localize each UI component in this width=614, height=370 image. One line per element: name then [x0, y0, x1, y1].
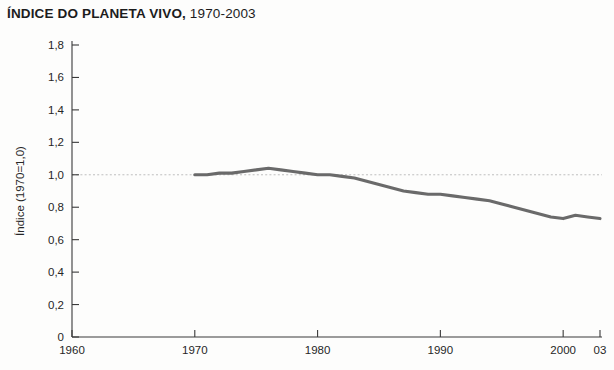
x-axis-ticks: 1960197019801990200003	[59, 330, 606, 356]
x-tick-label: 03	[594, 344, 607, 356]
y-tick-label: 0	[58, 331, 64, 343]
y-tick-label: 1,8	[48, 39, 64, 51]
x-tick-label: 1970	[182, 344, 208, 356]
x-tick-label: 2000	[550, 344, 576, 356]
y-tick-label: 0,2	[48, 299, 64, 311]
chart-figure: ÍNDICE DO PLANETA VIVO, 1970-2003 00,20,…	[0, 0, 614, 370]
x-tick-label: 1990	[428, 344, 454, 356]
line-chart-plot: 00,20,40,60,81,01,21,41,61,8 19601970198…	[0, 0, 614, 370]
x-tick-label: 1980	[305, 344, 331, 356]
y-axis-ticks: 00,20,40,60,81,01,21,41,61,8	[48, 39, 79, 343]
y-tick-label: 1,4	[48, 104, 65, 116]
y-tick-label: 0,4	[48, 266, 65, 278]
y-axis-title: Índice (1970=1,0)	[14, 146, 26, 236]
y-tick-label: 0,8	[48, 201, 64, 213]
y-tick-label: 0,6	[48, 234, 64, 246]
y-tick-label: 1,0	[48, 169, 64, 181]
y-tick-label: 1,6	[48, 71, 64, 83]
data-series-line	[195, 168, 600, 218]
y-tick-label: 1,2	[48, 136, 64, 148]
x-tick-label: 1960	[59, 344, 85, 356]
